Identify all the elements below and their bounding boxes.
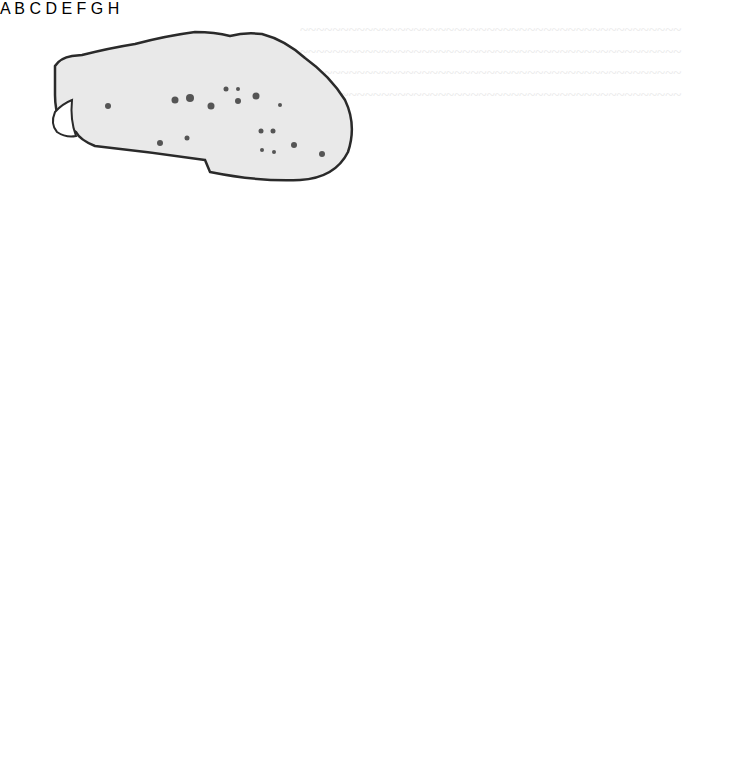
figure-artwork [0, 0, 747, 758]
figure: ~~~~~~~~~~~~~~~~~~~~~~~~~~~~~~~~~~~~~~~~… [0, 0, 747, 758]
panel-a-specimen [53, 32, 352, 180]
